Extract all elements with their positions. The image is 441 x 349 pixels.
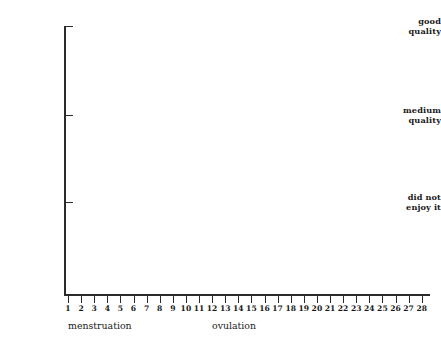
x-axis-tick [238, 296, 239, 303]
y-axis-tick-label-line2: enjoy it [385, 202, 441, 212]
x-axis-tick-label: 28 [413, 304, 431, 313]
x-axis-tick [212, 296, 213, 303]
x-axis-tick [225, 296, 226, 303]
y-axis-tick [64, 115, 73, 116]
x-axis-tick [369, 296, 370, 303]
x-axis-tick [409, 296, 410, 303]
x-axis-tick [317, 296, 318, 303]
x-axis-tick [94, 296, 95, 303]
y-axis-tick [64, 202, 73, 203]
x-axis-tick [396, 296, 397, 303]
x-axis-tick [147, 296, 148, 303]
x-axis-tick [120, 296, 121, 303]
x-axis-tick [251, 296, 252, 303]
x-axis-tick [356, 296, 357, 303]
y-axis-tick-label: did notenjoy it [385, 192, 441, 212]
y-axis-tick-label-line2: quality [385, 115, 441, 125]
x-axis-tick [173, 296, 174, 303]
x-axis-period-label-ovulation: ovulation [212, 320, 256, 331]
y-axis-tick-label: goodquality [385, 16, 441, 36]
x-axis-tick [81, 296, 82, 303]
y-axis-tick [64, 26, 73, 27]
x-axis-tick [330, 296, 331, 303]
x-axis-tick [160, 296, 161, 303]
x-axis-period-label-menstruation: menstruation [68, 320, 132, 331]
x-axis-tick [291, 296, 292, 303]
x-axis-line [64, 294, 430, 296]
x-axis-tick [278, 296, 279, 303]
x-axis-tick [265, 296, 266, 303]
x-axis-tick [134, 296, 135, 303]
y-axis-tick-label-line1: medium [385, 105, 441, 115]
x-axis-tick [422, 296, 423, 303]
chart-container: goodqualitymediumqualitydid notenjoy it … [0, 0, 441, 349]
y-axis-tick-label-line1: did not [385, 192, 441, 202]
x-axis-tick [107, 296, 108, 303]
x-axis-tick [304, 296, 305, 303]
x-axis-tick [343, 296, 344, 303]
y-axis-tick-label-line1: good [385, 16, 441, 26]
y-axis-tick-label-line2: quality [385, 26, 441, 36]
x-axis-tick [199, 296, 200, 303]
x-axis-tick [382, 296, 383, 303]
x-axis-tick [68, 296, 69, 303]
plot-area [66, 26, 430, 294]
y-axis-tick-label: mediumquality [385, 105, 441, 125]
x-axis-tick [186, 296, 187, 303]
